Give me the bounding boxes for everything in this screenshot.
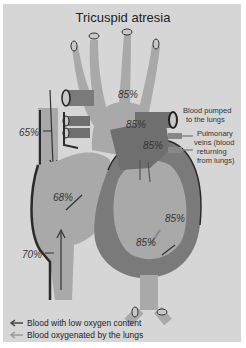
left-atrium-percentage: 85%: [143, 140, 163, 151]
vessel-opening: [153, 39, 159, 49]
pulmonary-artery-label-2: to the lungs: [186, 115, 225, 124]
right-atrium-percentage: 68%: [53, 192, 73, 203]
heart-diagram: Tricuspid atresia: [0, 0, 246, 348]
legend-item-oxygenated: Blood oxygenated by the lungs: [11, 330, 143, 340]
lv-upper-percentage: 85%: [165, 213, 185, 224]
pulmonary-veins-label-2: veins (blood: [194, 138, 234, 147]
superior-vena-cava: [38, 90, 58, 168]
pulmonary-artery-left: [62, 90, 94, 148]
vessel-opening: [122, 29, 132, 35]
ivc-percentage: 70%: [22, 249, 42, 260]
legend-label: Blood with low oxygen content: [27, 318, 142, 328]
vessel-opening: [89, 33, 99, 39]
pulmonary-veins-label-1: Pulmonary: [197, 129, 233, 138]
svc-percentage: 65%: [19, 127, 39, 138]
legend-label: Blood oxygenated by the lungs: [27, 330, 143, 340]
vessel-opening: [71, 41, 77, 51]
figure: Tricuspid atresia: [0, 0, 246, 348]
pulmonary-veins-label-4: from lungs): [197, 156, 235, 165]
lv-lower-percentage: 85%: [136, 237, 156, 248]
pulmonary-artery-percentage: 85%: [126, 119, 146, 130]
legend-item-low-oxygen: Blood with low oxygen content: [11, 318, 142, 328]
legend: Blood with low oxygen content Blood oxyg…: [11, 318, 143, 340]
diagram-title: Tricuspid atresia: [76, 10, 172, 25]
pulmonary-veins-label-3: returning: [197, 147, 227, 156]
aorta-percentage: 85%: [118, 89, 138, 100]
pulmonary-artery-label-1: Blood pumped: [183, 106, 231, 115]
